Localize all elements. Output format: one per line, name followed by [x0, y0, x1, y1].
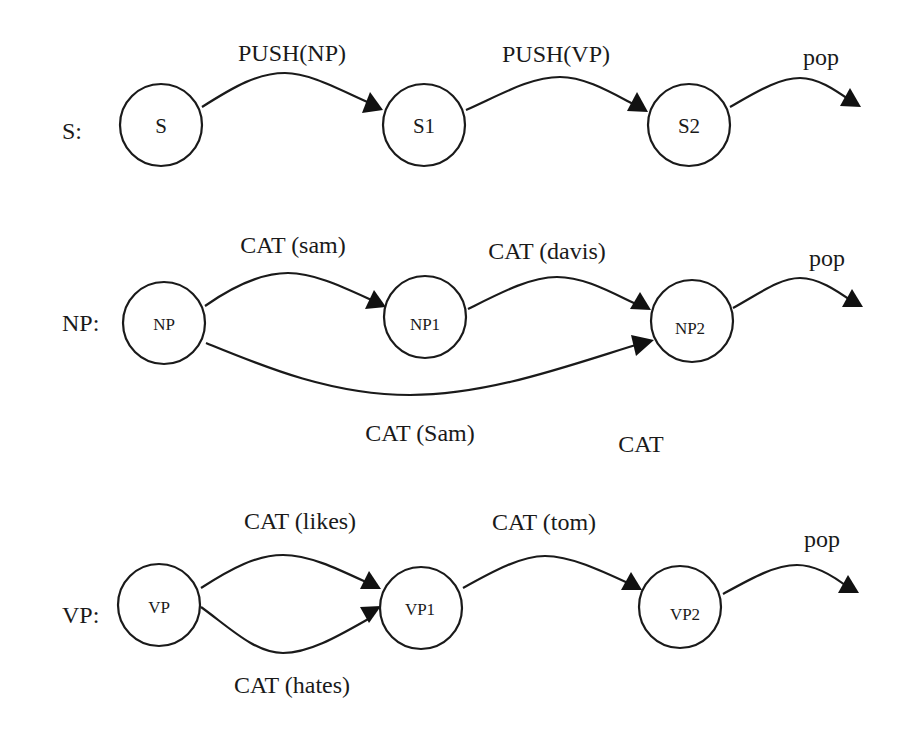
arc-vp1-vp2 — [463, 556, 630, 588]
arc-s-s1 — [202, 73, 372, 107]
arc-np2-pop — [733, 278, 853, 308]
network-label-np: NP: — [62, 310, 99, 336]
network-vp: VP: CAT (likes) CAT (hates) CAT (tom) po… — [62, 508, 859, 698]
arc-label-pop: pop — [803, 44, 839, 70]
arc-label-cat-davis: CAT (davis) — [488, 238, 606, 264]
state-label-np2: NP2 — [675, 319, 705, 338]
arrowhead-icon — [838, 575, 859, 593]
arc-label-cat-tom: CAT (tom) — [492, 509, 596, 535]
arc-vp2-pop — [723, 565, 850, 594]
state-label-s1: S1 — [413, 114, 435, 138]
arc-label-pop: pop — [804, 526, 840, 552]
arrowhead-icon — [842, 289, 863, 307]
network-np: NP: CAT (sam) CAT (davis) CAT (Sam) pop … — [62, 232, 863, 457]
state-label-s: S — [155, 114, 167, 138]
arrowhead-icon — [631, 335, 654, 356]
state-label-vp2: VP2 — [670, 605, 700, 624]
arrowhead-icon — [360, 606, 381, 623]
arc-np1-np2 — [468, 277, 640, 309]
arrowhead-icon — [840, 88, 861, 107]
network-label-vp: VP: — [62, 602, 99, 628]
state-label-s2: S2 — [678, 114, 700, 138]
arc-label-cat-sam: CAT (sam) — [240, 232, 346, 258]
atn-diagram: S: PUSH(NP) PUSH(VP) pop S S1 S2 NP: CAT… — [0, 0, 904, 729]
stray-label-cat: CAT — [618, 431, 664, 457]
state-label-vp1: VP1 — [405, 600, 435, 619]
network-s: S: PUSH(NP) PUSH(VP) pop S S1 S2 — [62, 40, 861, 166]
state-label-np1: NP1 — [410, 315, 440, 334]
arc-vp-vp1-likes — [201, 555, 370, 588]
arc-label-pop: pop — [809, 245, 845, 271]
arc-label-cat-hates: CAT (hates) — [234, 672, 350, 698]
network-label-s: S: — [62, 118, 82, 144]
arc-s2-pop — [730, 78, 851, 107]
arc-np-np1 — [205, 273, 376, 306]
state-label-np: NP — [153, 315, 175, 334]
arc-label-push-np: PUSH(NP) — [238, 40, 346, 66]
arc-vp-vp1-hates — [201, 607, 370, 653]
arrowhead-icon — [630, 292, 651, 310]
arc-s1-s2 — [466, 77, 637, 110]
arc-label-cat-sam-capital: CAT (Sam) — [365, 420, 475, 446]
arrowhead-icon — [362, 92, 383, 113]
arc-label-push-vp: PUSH(VP) — [502, 41, 610, 67]
arc-label-cat-likes: CAT (likes) — [244, 508, 356, 534]
state-label-vp: VP — [148, 598, 170, 617]
